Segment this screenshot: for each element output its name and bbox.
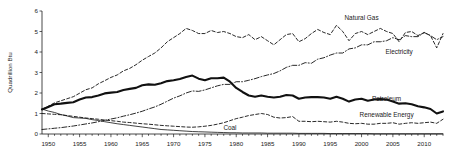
x-axis-tick-label: 1985: [261, 140, 275, 147]
x-axis-tick-label: 1955: [73, 140, 87, 147]
x-axis-tick-label: 1960: [104, 140, 118, 147]
y-axis-tick-label: 4: [35, 48, 39, 55]
series-label-natural-gas: Natural Gas: [344, 14, 378, 21]
y-axis-tick-label: 1: [35, 110, 39, 117]
y-axis-tick-label: 6: [35, 7, 39, 14]
y-axis-tick-label: 0: [35, 130, 39, 137]
series-label-petroleum: Petroleum: [372, 95, 401, 102]
x-axis-tick-label: 2000: [355, 140, 369, 147]
x-axis-tick-label: 2005: [386, 140, 400, 147]
x-axis-tick-label: 1975: [198, 140, 212, 147]
x-axis-tick-label: 1990: [292, 140, 306, 147]
series-label-electricity: Electricity: [385, 48, 413, 56]
chart-canvas: 0123456Quadrillion Btu195019551960196519…: [0, 0, 451, 163]
energy-consumption-line-chart: 0123456Quadrillion Btu195019551960196519…: [0, 0, 451, 163]
y-axis-tick-label: 5: [35, 28, 39, 35]
x-axis-tick-label: 1965: [135, 140, 149, 147]
x-axis-tick-label: 1995: [323, 140, 337, 147]
series-label-renewable-energy: Renewable Energy: [360, 111, 415, 119]
y-axis-tick-label: 3: [35, 69, 39, 76]
x-axis-tick-label: 1970: [167, 140, 181, 147]
x-axis-tick-label: 1980: [229, 140, 243, 147]
x-axis-tick-label: 2010: [417, 140, 431, 147]
y-axis-title: Quadrillion Btu: [6, 52, 13, 93]
x-axis-tick-label: 1950: [41, 140, 55, 147]
y-axis-tick-label: 2: [35, 89, 39, 96]
series-label-coal: Coal: [223, 124, 236, 131]
